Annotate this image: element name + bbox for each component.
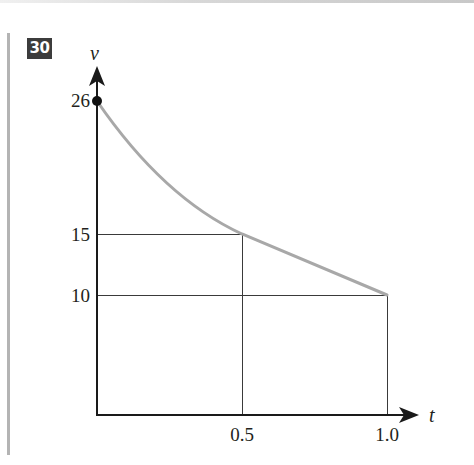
y-axis-label: v	[90, 42, 99, 64]
x-axis-label: t	[429, 404, 435, 426]
y-tick-10: 10	[71, 285, 90, 306]
velocity-time-chart: v t 26 15 10 0.5 1.0	[0, 0, 474, 465]
x-tick-0.5: 0.5	[230, 424, 254, 445]
x-tick-1.0: 1.0	[375, 424, 399, 445]
axes	[96, 80, 405, 416]
y-tick-26: 26	[71, 90, 90, 111]
guide-lines	[97, 234, 388, 415]
start-point-dot	[92, 96, 102, 106]
y-tick-15: 15	[71, 224, 90, 245]
